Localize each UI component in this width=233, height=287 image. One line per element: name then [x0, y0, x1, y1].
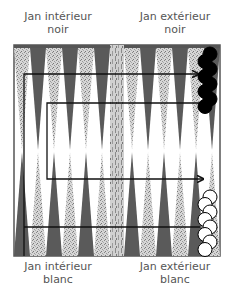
- black-checker: [198, 100, 212, 114]
- white-checker: [198, 243, 212, 257]
- backgammon-board: [0, 0, 233, 287]
- center-bar: [110, 45, 124, 256]
